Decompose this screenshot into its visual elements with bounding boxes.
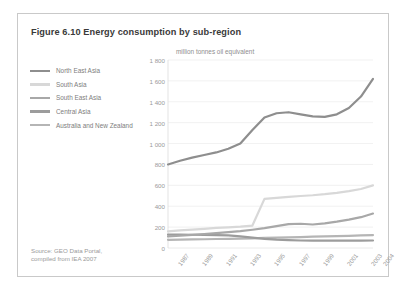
legend-swatch-icon	[30, 83, 50, 85]
legend-item-label: South East Asia	[56, 94, 101, 101]
y-axis-tick-label: 1 400	[150, 98, 165, 105]
y-axis-unit-label: million tonnes oil equivalent	[176, 48, 254, 55]
legend-item-label: Central Asia	[56, 108, 90, 115]
page-title: Figure 6.10 Energy consumption by sub-re…	[31, 27, 241, 37]
legend-item-label: North East Asia	[56, 67, 100, 74]
series-line	[168, 79, 373, 165]
source-note: Source: GEO Data Portal, compiled from I…	[31, 247, 102, 264]
y-axis-tick-label: 800	[155, 161, 165, 168]
y-axis-tick-label: 1 000	[150, 140, 165, 147]
chart-legend: North East AsiaSouth AsiaSouth East Asia…	[30, 64, 162, 132]
source-line-1: Source: GEO Data Portal,	[31, 247, 102, 255]
y-axis-tick-label: 600	[155, 182, 165, 189]
y-axis-tick-label: 1 600	[150, 77, 165, 84]
legend-item: South Asia	[30, 78, 162, 92]
legend-swatch-icon	[30, 110, 50, 112]
legend-item: Australia and New Zealand	[30, 118, 162, 132]
legend-item-label: South Asia	[56, 81, 87, 88]
legend-swatch-icon	[30, 70, 50, 72]
legend-item: North East Asia	[30, 64, 162, 78]
series-line	[168, 214, 373, 237]
legend-item-label: Australia and New Zealand	[56, 122, 133, 129]
y-axis-tick-label: 1 800	[150, 57, 165, 64]
legend-item: South East Asia	[30, 91, 162, 105]
figure-page: Figure 6.10 Energy consumption by sub-re…	[0, 0, 407, 291]
y-axis-tick-label: 0	[162, 245, 165, 252]
series-line	[168, 185, 373, 231]
line-chart-svg	[168, 60, 373, 248]
source-line-2: compiled from IEA 2007	[31, 255, 102, 263]
chart-plot-area: 02004006008001 0001 2001 4001 6001 80019…	[168, 60, 373, 248]
legend-item: Central Asia	[30, 105, 162, 119]
legend-swatch-icon	[30, 124, 50, 126]
legend-swatch-icon	[30, 97, 50, 99]
y-axis-tick-label: 1 200	[150, 119, 165, 126]
y-axis-tick-label: 400	[155, 203, 165, 210]
y-axis-tick-label: 200	[155, 224, 165, 231]
